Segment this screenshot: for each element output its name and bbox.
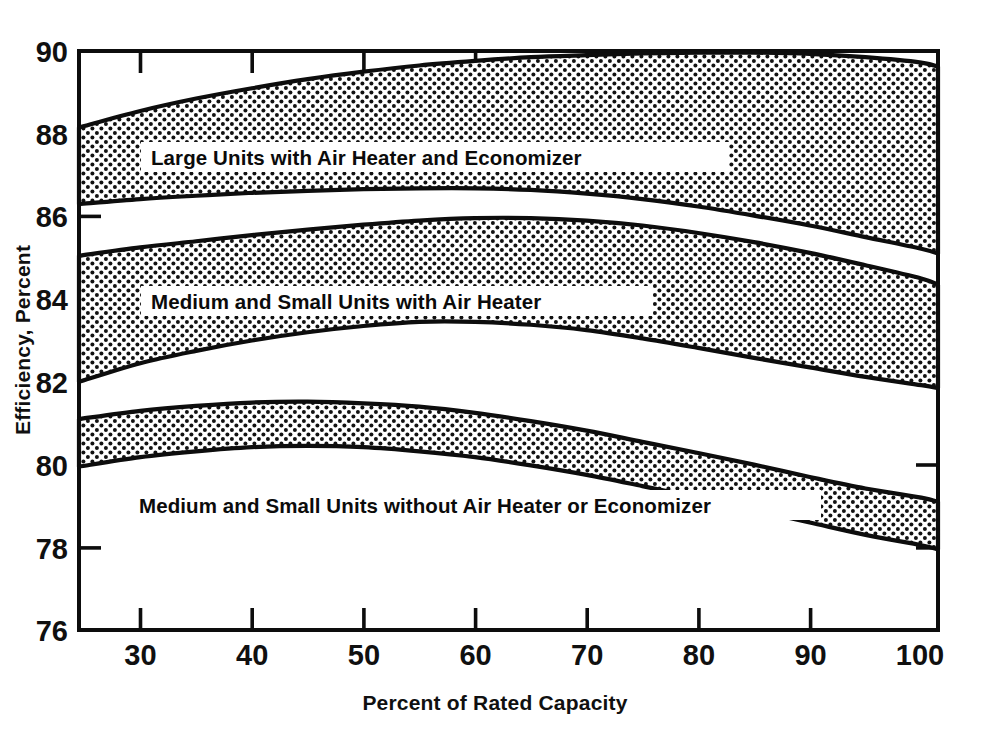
x-tick-label-70: 70 — [571, 639, 603, 671]
y-tick-label-90: 90 — [36, 36, 68, 68]
x-tick-label-90: 90 — [794, 639, 826, 671]
y-tick-label-76: 76 — [36, 615, 68, 647]
band-medium-small-units-without-air-heater-or-economizer — [79, 402, 938, 550]
y-tick-label-82: 82 — [36, 367, 68, 399]
band-label-bottom: Medium and Small Units without Air Heate… — [139, 494, 711, 517]
y-tick-labels: 90 88 86 84 82 80 78 76 — [36, 36, 68, 647]
x-tick-label-30: 30 — [124, 639, 156, 671]
x-tick-label-50: 50 — [348, 639, 380, 671]
x-tick-labels: 30 40 50 60 70 80 90 100 — [124, 639, 944, 671]
x-tick-label-60: 60 — [459, 639, 491, 671]
x-tick-label-80: 80 — [683, 639, 715, 671]
band-label-middle: Medium and Small Units with Air Heater — [151, 290, 541, 313]
band-label-bottom-group: Medium and Small Units without Air Heate… — [131, 490, 821, 520]
band-label-top-group: Large Units with Air Heater and Economiz… — [141, 142, 729, 172]
y-tick-label-78: 78 — [36, 533, 68, 565]
y-tick-label-86: 86 — [36, 201, 68, 233]
x-tick-label-40: 40 — [236, 639, 268, 671]
chart-canvas: Large Units with Air Heater and Economiz… — [0, 0, 990, 745]
y-tick-label-84: 84 — [36, 284, 68, 316]
x-tick-label-100: 100 — [896, 639, 944, 671]
y-tick-label-88: 88 — [36, 119, 68, 151]
band-label-middle-group: Medium and Small Units with Air Heater — [141, 286, 653, 316]
y-axis-title: Efficiency, Percent — [11, 245, 34, 435]
y-tick-label-80: 80 — [36, 450, 68, 482]
efficiency-chart: Large Units with Air Heater and Economiz… — [0, 0, 990, 745]
x-axis-title: Percent of Rated Capacity — [362, 691, 627, 714]
band-label-top: Large Units with Air Heater and Economiz… — [151, 146, 582, 169]
